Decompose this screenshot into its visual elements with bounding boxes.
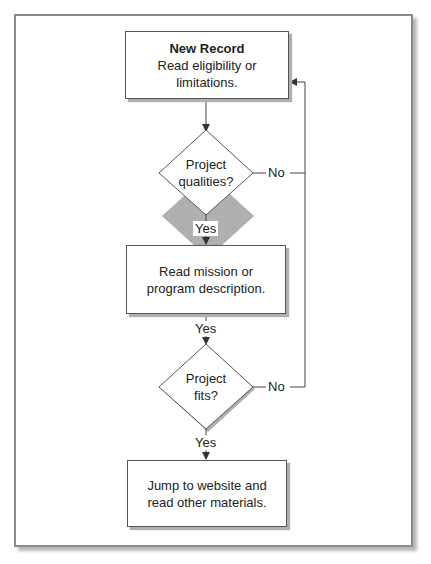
decision1-line2: qualities? [161,173,251,190]
decision1-line1: Project [161,156,251,173]
process1-line2: program description. [147,280,266,297]
decision2-label: Project fits? [161,370,251,404]
start-node: New Record Read eligibility or limitatio… [125,31,289,99]
decision2-line1: Project [161,370,251,387]
start-node-text: Read eligibility or limitations. [126,57,288,91]
decision1-label: Project qualities? [161,156,251,190]
end-line2: read other materials. [147,494,266,511]
process1-line1: Read mission or [159,263,253,280]
process1-node: Read mission or program description. [126,245,286,314]
decision2-no-label: No [266,379,287,394]
start-node-title: New Record [169,40,244,57]
decision1-yes-label: Yes [193,221,218,236]
end-node: Jump to website and read other materials… [127,460,287,527]
process1-yes-label: Yes [193,321,218,336]
decision1-no-label: No [266,165,287,180]
decision2-yes-label: Yes [193,435,218,450]
end-line1: Jump to website and [147,477,266,494]
decision2-line2: fits? [161,387,251,404]
